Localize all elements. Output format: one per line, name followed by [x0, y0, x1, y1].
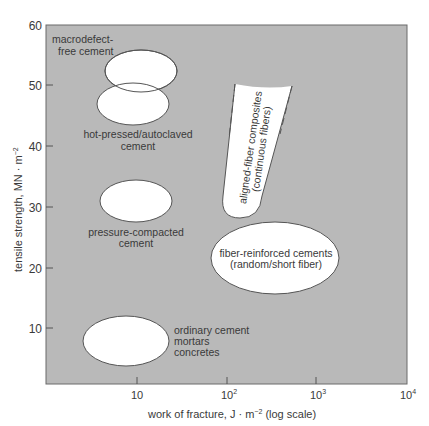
- x-tick-label: 10: [131, 389, 143, 401]
- chart: 60 50 40 30 20 10 10 102 103 104 work of…: [0, 0, 429, 426]
- x-tick-label: 104: [400, 388, 416, 401]
- label-macrodefect-free: macrodefect-free cement: [52, 33, 114, 57]
- y-tick-label: 40: [29, 140, 43, 154]
- y-tick-label: 50: [29, 79, 43, 93]
- region-ordinary-cement: [83, 316, 169, 366]
- y-tick-label: 10: [29, 322, 43, 336]
- y-tick-label: 60: [29, 19, 43, 33]
- region-pressure-compacted: [100, 180, 172, 222]
- x-tick-label: 103: [310, 388, 326, 401]
- label-fiber-reinforced: fiber-reinforced cements(random/short fi…: [219, 247, 332, 270]
- x-axis-label: work of fracture, J · m−2 (log scale): [147, 408, 316, 420]
- y-tick-label: 20: [29, 262, 43, 276]
- y-axis-label: tensile strength, MN · m−2: [12, 147, 24, 272]
- y-tick-label: 30: [29, 201, 43, 215]
- x-tick-label: 102: [221, 388, 237, 401]
